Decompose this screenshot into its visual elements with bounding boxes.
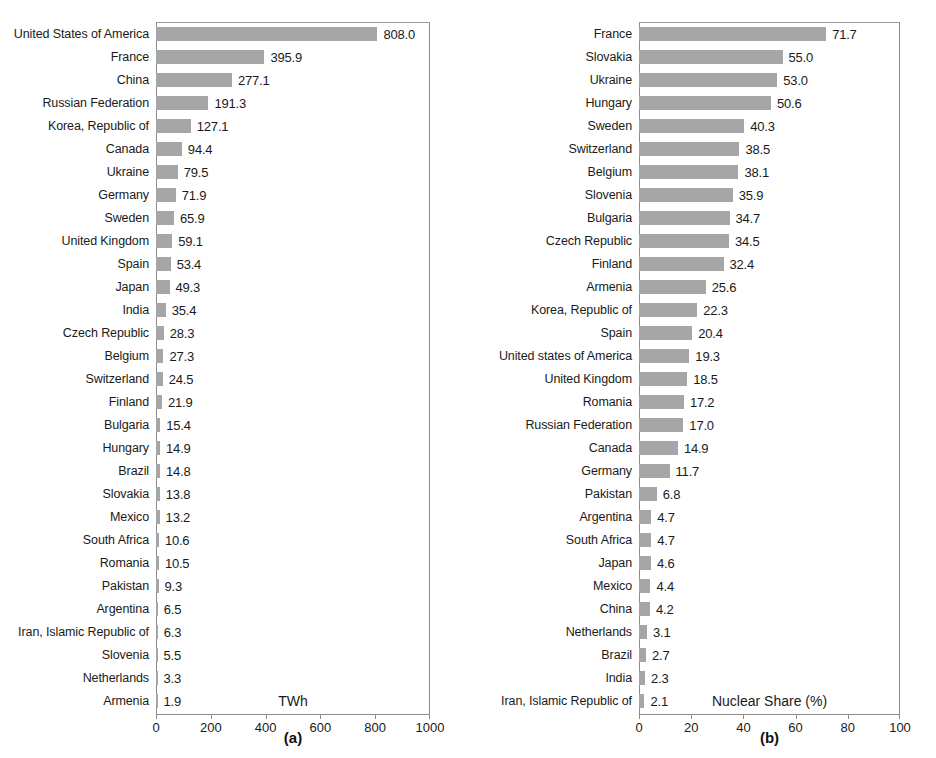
category-label: Romania (583, 396, 639, 409)
bar-row: United states of America19.3 (639, 345, 900, 368)
bar (156, 648, 158, 662)
bar-value-label: 35.9 (739, 189, 764, 202)
bar-value-label: 6.5 (164, 603, 181, 616)
bar-row: Armenia25.6 (639, 276, 900, 299)
bar (639, 671, 645, 685)
category-label: Germany (581, 465, 639, 478)
bar-row: Korea, Republic of22.3 (639, 299, 900, 322)
bar-value-label: 4.7 (657, 534, 674, 547)
category-label: United Kingdom (61, 235, 156, 248)
bar-value-label: 3.1 (653, 626, 670, 639)
bar-row: Slovenia35.9 (639, 184, 900, 207)
bar-value-label: 38.1 (744, 166, 769, 179)
bar-value-label: 49.3 (176, 281, 201, 294)
bar-value-label: 2.7 (652, 649, 669, 662)
bar-value-label: 17.2 (690, 396, 715, 409)
category-label: Brazil (601, 649, 639, 662)
bar (639, 188, 733, 202)
bar (639, 648, 646, 662)
bar-value-label: 34.5 (735, 235, 760, 248)
category-label: Ukraine (590, 74, 639, 87)
x-axis-tick (156, 715, 157, 719)
bar-row: Slovenia5.5 (156, 644, 430, 667)
bar-row: Sweden40.3 (639, 115, 900, 138)
bar-value-label: 65.9 (180, 212, 205, 225)
bar (156, 464, 160, 478)
bar (639, 349, 689, 363)
category-label: Russian Federation (42, 97, 156, 110)
bar-row: France395.9 (156, 46, 430, 69)
bar-value-label: 127.1 (197, 120, 229, 133)
bar (156, 73, 232, 87)
x-axis-tick (899, 715, 900, 719)
bar-row: Slovakia13.8 (156, 483, 430, 506)
bar-row: Hungary14.9 (156, 437, 430, 460)
panel-a: United States of America808.0France395.9… (0, 0, 468, 758)
bar (639, 533, 651, 547)
bar-value-label: 19.3 (695, 350, 720, 363)
bar-row: Germany71.9 (156, 184, 430, 207)
bar-value-label: 59.1 (178, 235, 203, 248)
figure-two-panel-bar-charts: United States of America808.0France395.9… (0, 0, 936, 758)
bar-value-label: 11.7 (676, 465, 700, 478)
bar-row: Ukraine79.5 (156, 161, 430, 184)
bar (156, 142, 182, 156)
bar-row: Canada14.9 (639, 437, 900, 460)
category-label: Korea, Republic of (531, 304, 639, 317)
category-label: Germany (98, 189, 156, 202)
bar-row: Canada94.4 (156, 138, 430, 161)
panel-caption-b: (b) (639, 730, 900, 745)
bar (156, 349, 163, 363)
bar-row: Romania10.5 (156, 552, 430, 575)
bar-row: Belgium27.3 (156, 345, 430, 368)
x-axis-tick (375, 715, 376, 719)
category-label: Russian Federation (525, 419, 639, 432)
bar-rows-b: France71.7Slovakia55.0Ukraine53.0Hungary… (639, 23, 900, 713)
bar-value-label: 5.5 (164, 649, 181, 662)
category-label: Mexico (110, 511, 156, 524)
bar (639, 27, 826, 41)
x-axis-tick (691, 715, 692, 719)
bar (639, 119, 744, 133)
category-label: Czech Republic (63, 327, 156, 340)
category-label: Netherlands (83, 672, 156, 685)
bar (156, 602, 158, 616)
bar-row: Switzerland38.5 (639, 138, 900, 161)
bar-value-label: 71.9 (182, 189, 207, 202)
bar (639, 441, 678, 455)
bar-value-label: 21.9 (168, 396, 193, 409)
bar (639, 326, 692, 340)
bar-row: Pakistan6.8 (639, 483, 900, 506)
bar-row: Brazil2.7 (639, 644, 900, 667)
bar-value-label: 14.8 (166, 465, 191, 478)
bar-row: Brazil14.8 (156, 460, 430, 483)
category-label: Korea, Republic of (48, 120, 156, 133)
bar-row: Finland32.4 (639, 253, 900, 276)
category-label: China (117, 74, 156, 87)
bar (156, 27, 377, 41)
bar-row: Iran, Islamic Republic of6.3 (156, 621, 430, 644)
bar (639, 579, 650, 593)
panel-caption-a: (a) (156, 730, 430, 745)
bar-row: Netherlands3.3 (156, 667, 430, 690)
category-label: France (594, 28, 639, 41)
bar-value-label: 191.3 (214, 97, 246, 110)
category-label: Finland (592, 258, 639, 271)
x-axis-tick (796, 715, 797, 719)
category-label: Spain (118, 258, 156, 271)
bar-row: Belgium38.1 (639, 161, 900, 184)
bar (156, 211, 174, 225)
bar-row: Korea, Republic of127.1 (156, 115, 430, 138)
bar-value-label: 13.2 (166, 511, 191, 524)
bar-row: Russian Federation191.3 (156, 92, 430, 115)
bar-value-label: 6.8 (663, 488, 680, 501)
bar-value-label: 40.3 (750, 120, 775, 133)
bar-row: Pakistan9.3 (156, 575, 430, 598)
bar-value-label: 15.4 (166, 419, 191, 432)
bar-value-label: 9.3 (165, 580, 182, 593)
bar (639, 73, 777, 87)
bar-row: Argentina4.7 (639, 506, 900, 529)
bar (156, 303, 166, 317)
bar (639, 303, 697, 317)
category-label: Spain (601, 327, 639, 340)
